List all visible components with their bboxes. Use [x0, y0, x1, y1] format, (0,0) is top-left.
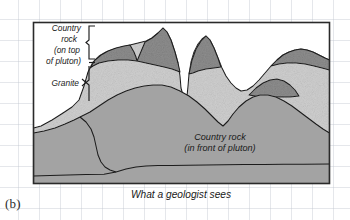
label-country-rock-line2: rock	[61, 34, 78, 44]
geology-cross-section-figure: Country rock (on top of pluton) Granite …	[0, 0, 350, 220]
label-granite: Granite	[52, 78, 80, 88]
label-country-rock-line1: Country	[52, 23, 82, 33]
label-country-rock-front-line1: Country rock	[194, 132, 246, 142]
panel-label: (b)	[5, 196, 21, 212]
figure-caption: What a geologist sees	[131, 189, 231, 200]
label-country-rock-line3: (on top	[54, 45, 80, 55]
label-country-rock-line4: of pluton)	[46, 56, 81, 66]
label-country-rock-front-line2: (in front of pluton)	[184, 143, 255, 153]
